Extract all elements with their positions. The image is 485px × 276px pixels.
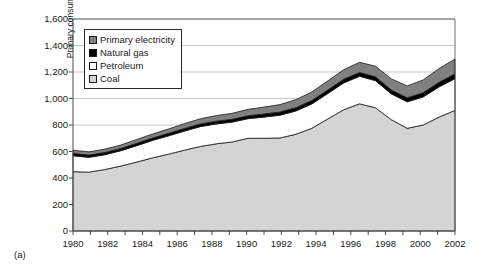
- x-tick-label: 2002: [435, 238, 475, 249]
- legend-label: Petroleum: [100, 61, 143, 71]
- chart-legend: Primary electricityNatural gasPetroleumC…: [84, 29, 182, 89]
- y-tick-label: 1,600: [32, 14, 68, 23]
- y-tick-label: 600: [32, 147, 68, 156]
- legend-item: Petroleum: [89, 59, 175, 72]
- y-tick-label: 1,400: [32, 41, 68, 50]
- y-tick-label: 1,200: [32, 67, 68, 76]
- y-axis-title: Primary consumption (Mtce): [65, 0, 75, 75]
- legend-label: Primary electricity: [100, 35, 175, 45]
- legend-item: Coal: [89, 72, 175, 85]
- chart-figure: Primary consumption (Mtce) 0200400600800…: [0, 0, 485, 276]
- y-tick-label: 400: [32, 173, 68, 182]
- panel-label: (a): [14, 249, 26, 260]
- legend-swatch-icon: [89, 75, 97, 83]
- legend-item: Natural gas: [89, 46, 175, 59]
- legend-swatch-icon: [89, 49, 97, 57]
- legend-label: Natural gas: [100, 48, 149, 58]
- legend-label: Coal: [100, 74, 120, 84]
- legend-swatch-icon: [89, 36, 97, 44]
- legend-swatch-icon: [89, 62, 97, 70]
- y-tick-label: 800: [32, 120, 68, 129]
- legend-item: Primary electricity: [89, 33, 175, 46]
- y-tick-label: 200: [32, 200, 68, 209]
- y-tick-label: 0: [32, 226, 68, 235]
- y-tick-label: 1,000: [32, 94, 68, 103]
